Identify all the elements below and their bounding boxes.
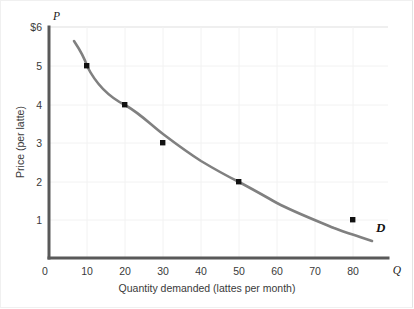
demand-curve-label: D xyxy=(375,220,386,235)
x-tick-0: 0 xyxy=(42,265,48,277)
demand-curve-figure: $6 5 4 3 2 1 0 10 20 30 40 50 60 70 80 P… xyxy=(0,0,414,309)
x-tick-60: 60 xyxy=(271,265,283,277)
y-tick-2: 2 xyxy=(36,176,42,188)
y-tick-6: $6 xyxy=(30,21,42,33)
x-tick-10: 10 xyxy=(81,265,93,277)
y-tick-labels: $6 5 4 3 2 1 xyxy=(30,21,42,226)
demand-curve-chart: $6 5 4 3 2 1 0 10 20 30 40 50 60 70 80 P… xyxy=(0,0,414,309)
x-tick-labels: 0 10 20 30 40 50 60 70 80 xyxy=(42,265,359,277)
y-tick-3: 3 xyxy=(36,137,42,149)
data-point-10-5 xyxy=(84,63,89,68)
x-tick-40: 40 xyxy=(195,265,207,277)
horizontal-gridlines xyxy=(49,27,388,220)
x-tick-30: 30 xyxy=(157,265,169,277)
x-tick-50: 50 xyxy=(233,265,245,277)
data-point-55-2 xyxy=(236,179,241,184)
x-tick-70: 70 xyxy=(309,265,321,277)
x-axis-symbol: Q xyxy=(393,264,402,276)
data-point-80-1 xyxy=(350,217,355,222)
x-tick-20: 20 xyxy=(119,265,131,277)
y-tick-5: 5 xyxy=(36,60,42,72)
demand-curve-path xyxy=(74,41,372,241)
y-tick-4: 4 xyxy=(36,99,42,111)
x-axis-title: Quantity demanded (lattes per month) xyxy=(119,282,296,294)
y-axis-title: Price (per latte) xyxy=(14,106,26,178)
y-axis-symbol: P xyxy=(52,10,60,22)
data-point-20-4 xyxy=(122,102,127,107)
x-tick-80: 80 xyxy=(347,265,359,277)
data-point-35-3 xyxy=(160,140,165,145)
y-tick-1: 1 xyxy=(36,214,42,226)
